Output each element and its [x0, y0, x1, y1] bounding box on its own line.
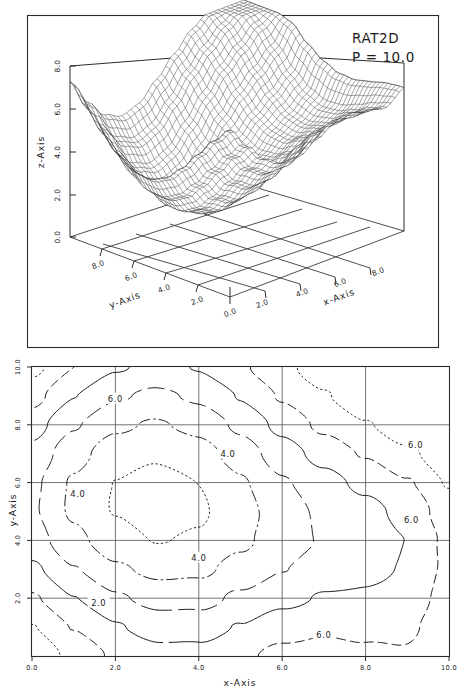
contour-inline-label-7: 6.0	[316, 630, 331, 640]
surface-y-tick-8: 8.0	[91, 258, 106, 271]
contour-level-7.0	[32, 624, 60, 654]
surface-y-tick-2: 2.0	[190, 294, 205, 307]
surface-y-axis-label: y-Axis	[107, 289, 142, 311]
contour-lines	[32, 367, 449, 656]
contour-inline-label-6: 6.0	[404, 515, 419, 525]
surface-x-tick-8: 8.0	[371, 265, 386, 278]
surface-z-axis-label: z-Axis	[35, 136, 46, 168]
contour-y-axis: 2.04.06.08.010.0	[14, 359, 32, 604]
figure-parameter-label: P = 10.0	[352, 49, 415, 65]
contour-level-2.0	[109, 464, 210, 544]
contour-level-3.0	[65, 419, 260, 580]
contour-y-tick-1: 4.0	[14, 535, 22, 546]
contour-x-tick-5: 10.0	[441, 664, 457, 672]
contour-panel: 6.04.04.04.02.06.06.06.0 0.02.04.06.08.0…	[7, 359, 457, 688]
z-tick-2: 2.0	[53, 189, 62, 202]
surface-y-tick-4: 4.0	[157, 282, 172, 295]
surface-y-axis: 8.0 6.0 4.0 2.0 y-Axis	[91, 249, 205, 310]
contour-x-tick-1: 2.0	[110, 664, 121, 672]
contour-level-7.0	[297, 367, 449, 488]
contour-x-axis: 0.02.04.06.08.010.0	[26, 656, 457, 672]
contour-x-tick-3: 6.0	[277, 664, 288, 672]
z-tick-8: 8.0	[53, 60, 62, 73]
surface-x-axis: 0.0 2.0 4.0 6.0 8.0 x-Axis	[223, 265, 386, 319]
surface-panel: RAT2D P = 10.0	[28, 0, 439, 348]
figure-title: RAT2D	[352, 30, 399, 46]
contour-level-7.0	[36, 367, 45, 377]
contour-x-axis-label: x-Axis	[223, 677, 256, 688]
contour-x-tick-2: 4.0	[193, 664, 204, 672]
contour-inline-label-2: 4.0	[70, 489, 85, 499]
surface-x-tick-0: 0.0	[223, 306, 238, 319]
contour-x-tick-0: 0.0	[26, 664, 37, 672]
contour-level-5.0	[169, 367, 404, 643]
contour-x-tick-4: 8.0	[360, 664, 371, 672]
z-tick-0: 0.0	[53, 231, 62, 244]
contour-inline-label-4: 2.0	[91, 598, 106, 608]
surface-x-tick-4: 4.0	[295, 286, 310, 299]
contour-y-tick-3: 8.0	[14, 419, 22, 430]
z-tick-6: 6.0	[53, 103, 62, 116]
contour-level-6.0	[251, 367, 438, 656]
contour-inline-label-3: 4.0	[191, 553, 206, 563]
contour-inline-label-5: 6.0	[408, 440, 423, 450]
z-tick-4: 4.0	[53, 146, 62, 159]
contour-level-labels: 6.04.04.04.02.06.06.06.0	[67, 393, 427, 640]
contour-inline-label-0: 6.0	[108, 394, 123, 404]
surface-y-tick-6: 6.0	[124, 270, 139, 283]
contour-y-tick-0: 2.0	[14, 593, 22, 604]
rat2d-figure: RAT2D P = 10.0	[0, 0, 465, 695]
surface-x-tick-2: 2.0	[255, 297, 270, 310]
contour-inline-label-1: 4.0	[220, 449, 235, 459]
contour-y-tick-4: 10.0	[14, 359, 22, 375]
surface-x-axis-label: x-Axis	[321, 286, 356, 308]
contour-y-axis-label: y-Axis	[7, 494, 18, 527]
contour-y-tick-2: 6.0	[14, 477, 22, 488]
